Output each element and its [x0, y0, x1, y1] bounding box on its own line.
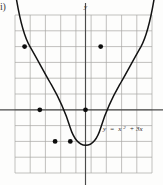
data-point: [22, 44, 27, 49]
data-point: [68, 139, 73, 144]
grid-horizontal-lines: [15, 15, 152, 173]
data-point: [53, 139, 58, 144]
y-axis-label: y: [83, 3, 88, 11]
equation-rest: + 3x: [129, 125, 143, 133]
data-point: [83, 107, 88, 112]
data-point: [98, 44, 103, 49]
equation-equals: =: [110, 125, 115, 133]
graph-figure: i): [0, 0, 163, 185]
part-label: i): [0, 1, 6, 12]
data-point: [37, 107, 42, 112]
equation-exponent: 2: [123, 125, 126, 130]
equation-lhs: y: [102, 125, 107, 133]
coordinate-plane: y y = x 2 + 3x: [0, 0, 163, 185]
equation-base: x: [117, 125, 122, 133]
